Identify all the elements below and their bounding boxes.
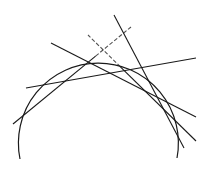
tangent-5-line xyxy=(114,15,184,148)
tangent-4-line xyxy=(120,67,196,141)
circle-arc xyxy=(18,63,178,159)
tangent-2-line xyxy=(26,58,196,88)
diagram-canvas xyxy=(0,0,208,180)
tangent-1-dashed-segment xyxy=(96,27,131,56)
tangent-1-line xyxy=(13,56,96,124)
tangent-lines xyxy=(13,15,196,148)
tangent-diagram xyxy=(0,0,208,180)
